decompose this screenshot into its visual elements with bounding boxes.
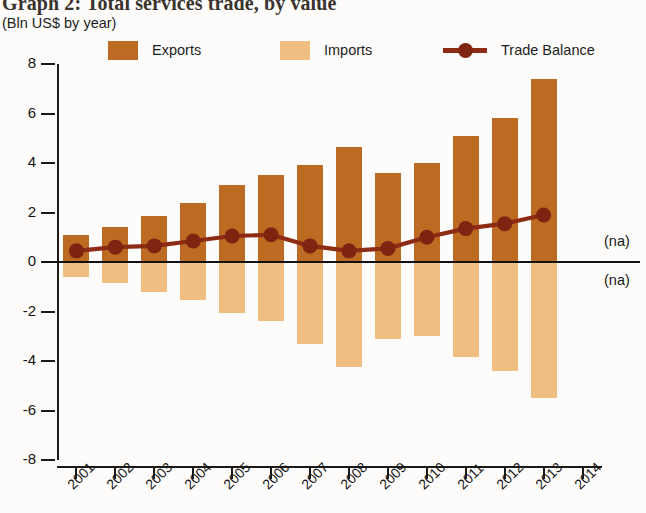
- na-label-below-zero: (na): [604, 272, 630, 288]
- legend-label-exports: Exports: [152, 42, 201, 58]
- y-tick: [41, 311, 55, 313]
- legend-swatch-imports: [280, 41, 310, 60]
- x-tick-label: 2013: [532, 459, 565, 492]
- chart-root: Graph 2: Total services trade, by value …: [0, 0, 646, 513]
- y-tick: [41, 63, 55, 65]
- legend-label-imports: Imports: [324, 42, 372, 58]
- legend-swatch-exports: [108, 41, 138, 60]
- legend-item-imports[interactable]: Imports: [280, 38, 372, 62]
- x-tick-label: 2014: [571, 459, 604, 492]
- y-tick: [41, 459, 55, 461]
- bar-exports: [180, 203, 206, 262]
- bar-imports: [219, 262, 245, 313]
- bar-exports: [492, 118, 518, 262]
- x-tick-label: 2008: [337, 459, 370, 492]
- bar-exports: [297, 165, 323, 262]
- bar-exports: [336, 147, 362, 262]
- y-tick-label: 2: [0, 203, 36, 220]
- x-tick-label: 2002: [103, 459, 136, 492]
- x-tick-label: 2006: [259, 459, 292, 492]
- y-tick-label: 0: [0, 252, 36, 269]
- y-tick-label: -8: [0, 450, 36, 467]
- bar-exports: [63, 235, 89, 262]
- y-tick-label: -2: [0, 302, 36, 319]
- x-tick-label: 2011: [454, 460, 487, 493]
- chart-legend: Exports Imports Trade Balance: [0, 38, 646, 62]
- bar-exports: [219, 185, 245, 262]
- bar-imports: [453, 262, 479, 357]
- y-tick: [41, 162, 55, 164]
- bar-exports: [141, 216, 167, 262]
- y-tick: [41, 113, 55, 115]
- x-tick-label: 2012: [493, 459, 526, 492]
- bar-exports: [531, 79, 557, 262]
- y-tick-label: -6: [0, 401, 36, 418]
- x-tick-label: 2001: [64, 459, 97, 492]
- y-tick: [41, 212, 55, 214]
- x-tick-label: 2009: [376, 459, 409, 492]
- bar-exports: [258, 175, 284, 262]
- bar-imports: [258, 262, 284, 321]
- x-tick-label: 2005: [220, 459, 253, 492]
- legend-item-trade-balance[interactable]: Trade Balance: [443, 38, 595, 62]
- bar-imports: [63, 262, 89, 277]
- bar-imports: [531, 262, 557, 398]
- na-label-above-zero: (na): [604, 233, 630, 249]
- bar-imports: [102, 262, 128, 283]
- bar-imports: [492, 262, 518, 371]
- y-tick-label: -4: [0, 351, 36, 368]
- legend-item-exports[interactable]: Exports: [108, 38, 201, 62]
- bar-exports: [453, 136, 479, 262]
- bar-imports: [336, 262, 362, 367]
- bar-exports: [414, 163, 440, 262]
- x-tick-label: 2003: [142, 459, 175, 492]
- page-title: Graph 2: Total services trade, by value: [2, 0, 336, 15]
- x-tick-label: 2007: [298, 459, 331, 492]
- chart-subtitle: (Bln US$ by year): [2, 15, 116, 31]
- x-tick-label: 2010: [415, 459, 448, 492]
- bar-imports: [414, 262, 440, 336]
- zero-baseline: [44, 261, 640, 263]
- bar-imports: [375, 262, 401, 339]
- x-tick-label: 2004: [181, 459, 214, 492]
- y-tick: [41, 360, 55, 362]
- bar-imports: [297, 262, 323, 344]
- y-tick-label: 4: [0, 153, 36, 170]
- bar-exports: [375, 173, 401, 262]
- bar-imports: [141, 262, 167, 292]
- y-tick: [41, 410, 55, 412]
- bar-imports: [180, 262, 206, 300]
- bar-exports: [102, 227, 128, 262]
- legend-line-marker-icon: [443, 41, 487, 60]
- y-tick-label: 6: [0, 104, 36, 121]
- legend-label-trade-balance: Trade Balance: [501, 42, 595, 58]
- y-tick-label: 8: [0, 54, 36, 71]
